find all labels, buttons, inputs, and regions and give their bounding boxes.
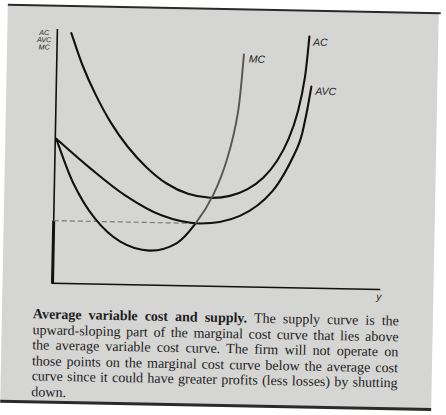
caption-line-1-text: The supply curve is the [254,311,399,329]
ac-curve-label: AC [312,36,328,48]
mc-curve-label: MC [249,52,266,64]
min-avc-dashed-line [54,221,196,224]
y-axis-label-mc: MC [38,42,50,51]
ac-curve [68,32,309,200]
mc-supply-curve [196,54,244,225]
figure-caption: Average variable cost and supply. The su… [31,306,399,406]
supply-vertical-segment [53,221,54,284]
x-axis [53,283,380,289]
avc-curve-label: AVC [314,85,337,97]
x-axis-label: y [375,291,382,302]
avc-curve [55,82,312,226]
figure-page: AC AVC MC AC AVC MC y Average variable c… [0,0,446,415]
